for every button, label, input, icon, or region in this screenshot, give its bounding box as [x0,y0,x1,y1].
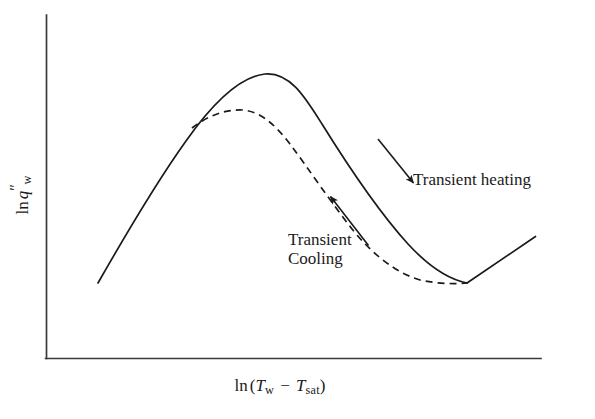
transient-heating-label: Transient heating [413,170,531,189]
x-axis-label-variable-1: T [255,376,264,395]
transient-cooling-label-line-2: Cooling [288,249,352,268]
y-axis-label-variable: q [13,191,32,200]
x-axis-label-close-paren: ) [320,376,326,395]
transient-cooling-label-line-1: Transient [288,230,352,249]
y-axis-label-prime: ″ [7,184,24,190]
transient-heating-arrow [378,139,414,183]
y-axis-label-prefix: ln [13,201,32,214]
chart-canvas [0,0,595,419]
x-axis-label-prefix: ln [235,376,248,395]
x-axis-label-variable-2: T [296,376,305,395]
x-axis-label-operator: − [280,376,290,395]
x-axis-label-subscript-1: w [265,383,274,397]
x-axis-label-subscript-2: sat [306,383,320,397]
y-axis-label: lnq″w [7,155,35,235]
y-axis-label-subscript: w [20,175,34,184]
boiling-curve-figure: lnq″w ln(Tw − Tsat) Transient heating Tr… [0,0,595,419]
curve-film-boiling-rise [467,237,536,284]
x-axis-label: ln(Tw − Tsat) [0,376,560,398]
transient-cooling-label: Transient Cooling [288,230,352,268]
curve-transient-heating [98,74,467,283]
